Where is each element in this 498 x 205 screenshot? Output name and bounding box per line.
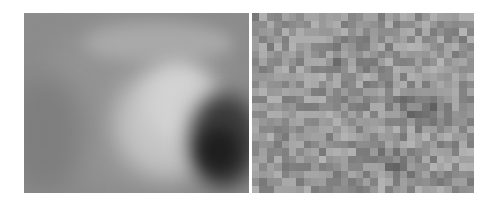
mosaic-cell [319, 141, 326, 149]
mosaic-cell [467, 163, 474, 171]
mosaic-cell [259, 28, 266, 36]
mosaic-cell [282, 58, 289, 66]
mosaic-cell [319, 66, 326, 74]
mosaic-cell [356, 36, 363, 44]
mosaic-cell [259, 96, 266, 104]
mosaic-cell [393, 103, 400, 111]
mosaic-cell [289, 111, 296, 119]
mosaic-cell [259, 156, 266, 164]
mosaic-cell [452, 141, 459, 149]
mosaic-cell [333, 43, 340, 51]
mosaic-cell [326, 103, 333, 111]
mosaic-cell [333, 141, 340, 149]
mosaic-cell [348, 73, 355, 81]
mosaic-cell [430, 156, 437, 164]
mosaic-cell [430, 126, 437, 134]
mosaic-cell [407, 21, 414, 29]
mosaic-cell [393, 156, 400, 164]
mosaic-cell [444, 148, 451, 156]
mosaic-cell [289, 58, 296, 66]
mosaic-cell [326, 111, 333, 119]
mosaic-cell [341, 13, 348, 21]
mosaic-cell [400, 156, 407, 164]
mosaic-cell [415, 163, 422, 171]
mosaic-cell [422, 13, 429, 21]
mosaic-cell [259, 103, 266, 111]
mosaic-cell [363, 21, 370, 29]
mosaic-cell [452, 186, 459, 194]
mosaic-cell [400, 133, 407, 141]
mosaic-cell [437, 141, 444, 149]
mosaic-cell [363, 148, 370, 156]
mosaic-cell [333, 178, 340, 186]
mosaic-cell [400, 66, 407, 74]
mosaic-cell [444, 58, 451, 66]
mosaic-cell [252, 186, 259, 194]
mosaic-cell [348, 21, 355, 29]
mosaic-cell [304, 178, 311, 186]
mosaic-cell [452, 148, 459, 156]
mosaic-cell [274, 156, 281, 164]
mosaic-cell [393, 43, 400, 51]
mosaic-cell [393, 171, 400, 179]
mosaic-cell [437, 171, 444, 179]
mosaic-cell [274, 118, 281, 126]
mosaic-cell [385, 73, 392, 81]
mosaic-cell [385, 186, 392, 194]
mosaic-cell [363, 13, 370, 21]
mosaic-cell [378, 36, 385, 44]
mosaic-cell [444, 73, 451, 81]
mosaic-cell [304, 111, 311, 119]
mosaic-cell [319, 126, 326, 134]
mosaic-cell [259, 36, 266, 44]
mosaic-cell [385, 36, 392, 44]
mosaic-cell [259, 141, 266, 149]
mosaic-cell [341, 88, 348, 96]
mosaic-cell [407, 81, 414, 89]
mosaic-cell [363, 111, 370, 119]
mosaic-cell [385, 21, 392, 29]
mosaic-cell [274, 81, 281, 89]
mosaic-cell [437, 66, 444, 74]
mosaic-cell [304, 118, 311, 126]
mosaic-cell [415, 96, 422, 104]
mosaic-cell [437, 118, 444, 126]
mosaic-cell [326, 13, 333, 21]
mosaic-cell [430, 141, 437, 149]
mosaic-cell [311, 73, 318, 81]
mosaic-cell [319, 178, 326, 186]
mosaic-cell [378, 43, 385, 51]
mosaic-cell [452, 43, 459, 51]
mosaic-cell [356, 43, 363, 51]
mosaic-cell [333, 126, 340, 134]
mosaic-cell [341, 43, 348, 51]
mosaic-cell [341, 81, 348, 89]
mosaic-cell [393, 58, 400, 66]
mosaic-cell [430, 178, 437, 186]
mosaic-cell [296, 111, 303, 119]
mosaic-cell [282, 178, 289, 186]
mosaic-cell [430, 118, 437, 126]
mosaic-cell [356, 171, 363, 179]
mosaic-cell [252, 43, 259, 51]
mosaic-cell [437, 103, 444, 111]
mosaic-cell [378, 51, 385, 59]
left-image-panel [24, 13, 249, 193]
mosaic-cell [452, 73, 459, 81]
mosaic-cell [400, 73, 407, 81]
mosaic-cell [452, 163, 459, 171]
mosaic-cell [400, 171, 407, 179]
mosaic-cell [378, 141, 385, 149]
mosaic-cell [415, 21, 422, 29]
mosaic-cell [348, 88, 355, 96]
mosaic-cell [393, 21, 400, 29]
mosaic-cell [274, 133, 281, 141]
mosaic-cell [400, 111, 407, 119]
mosaic-cell [430, 133, 437, 141]
mosaic-cell [348, 81, 355, 89]
mosaic-cell [252, 118, 259, 126]
mosaic-cell [282, 81, 289, 89]
mosaic-cell [274, 43, 281, 51]
mosaic-cell [267, 156, 274, 164]
mosaic-cell [385, 171, 392, 179]
